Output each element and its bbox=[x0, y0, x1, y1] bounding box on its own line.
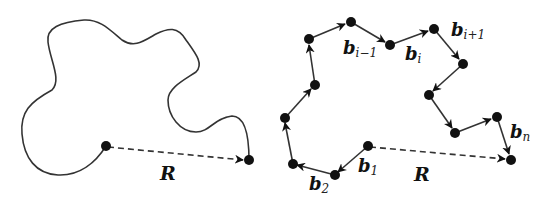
label-b-n: bn bbox=[510, 121, 530, 144]
node bbox=[385, 40, 395, 50]
bond bbox=[455, 119, 491, 133]
bond-b-n bbox=[497, 117, 509, 154]
chain-contour bbox=[22, 20, 249, 175]
node bbox=[506, 155, 516, 165]
end-to-end-vector bbox=[370, 147, 505, 159]
node bbox=[458, 59, 468, 69]
continuous-chain-panel: R bbox=[22, 20, 254, 184]
end-to-end-vector bbox=[108, 147, 243, 160]
label-b1: b1 bbox=[358, 155, 378, 178]
node bbox=[310, 80, 320, 90]
node bbox=[288, 159, 298, 169]
node bbox=[424, 90, 434, 100]
node bbox=[429, 24, 439, 34]
chain-start-node bbox=[101, 141, 111, 151]
chain-end-node bbox=[244, 155, 254, 165]
bond-b-i-minus-1 bbox=[351, 22, 385, 42]
label-b-i: bi bbox=[405, 43, 422, 66]
node bbox=[450, 128, 460, 138]
vector-R-label: R bbox=[413, 163, 430, 185]
bond bbox=[285, 123, 293, 164]
polymer-chain-diagram: R bbox=[0, 0, 545, 204]
node bbox=[304, 34, 314, 44]
node bbox=[330, 170, 340, 180]
node bbox=[363, 141, 373, 151]
bond bbox=[429, 95, 452, 128]
bond bbox=[309, 24, 345, 39]
vector-R-label: R bbox=[159, 162, 176, 184]
label-b2: b2 bbox=[309, 173, 329, 196]
freely-jointed-chain-panel: R b1 b2 bi−1 bi bi+1 bn bbox=[280, 17, 530, 196]
bond bbox=[433, 64, 463, 91]
node bbox=[346, 17, 356, 27]
bond bbox=[285, 89, 311, 118]
node bbox=[492, 112, 502, 122]
node bbox=[280, 113, 290, 123]
label-b-i-minus-1: bi−1 bbox=[343, 37, 377, 60]
label-b-i-plus-1: bi+1 bbox=[451, 19, 485, 42]
bond bbox=[309, 45, 315, 85]
